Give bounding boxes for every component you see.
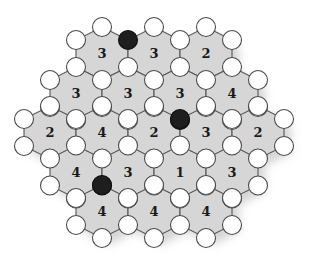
cell-number: 4 (97, 204, 106, 219)
empty-node[interactable] (223, 216, 242, 235)
empty-node[interactable] (41, 149, 60, 168)
empty-node[interactable] (67, 110, 86, 129)
empty-node[interactable] (223, 58, 242, 77)
empty-node[interactable] (41, 176, 60, 195)
filled-node[interactable] (171, 110, 190, 129)
empty-node[interactable] (223, 189, 242, 208)
cell-number: 2 (45, 125, 54, 140)
game-board: 3323334242324313444 (0, 0, 313, 263)
empty-node[interactable] (119, 136, 138, 155)
empty-node[interactable] (119, 110, 138, 129)
cell-number: 3 (123, 165, 132, 180)
cell-number: 4 (71, 165, 80, 180)
empty-node[interactable] (197, 176, 216, 195)
empty-node[interactable] (223, 31, 242, 50)
empty-node[interactable] (41, 71, 60, 90)
cell-number: 4 (97, 125, 106, 140)
empty-node[interactable] (197, 149, 216, 168)
cell-number: 3 (97, 46, 106, 61)
filled-node[interactable] (93, 176, 112, 195)
empty-node[interactable] (197, 97, 216, 116)
empty-node[interactable] (93, 229, 112, 248)
empty-node[interactable] (145, 176, 164, 195)
empty-node[interactable] (67, 136, 86, 155)
cell-number: 4 (227, 86, 236, 101)
empty-node[interactable] (67, 58, 86, 77)
empty-node[interactable] (119, 58, 138, 77)
cell-number: 2 (149, 125, 158, 140)
empty-node[interactable] (67, 31, 86, 50)
empty-node[interactable] (171, 216, 190, 235)
empty-node[interactable] (223, 110, 242, 129)
empty-node[interactable] (197, 71, 216, 90)
empty-node[interactable] (249, 149, 268, 168)
empty-node[interactable] (145, 18, 164, 37)
empty-node[interactable] (67, 216, 86, 235)
empty-node[interactable] (275, 110, 294, 129)
empty-node[interactable] (15, 110, 34, 129)
empty-node[interactable] (249, 176, 268, 195)
empty-node[interactable] (93, 71, 112, 90)
empty-node[interactable] (171, 189, 190, 208)
filled-node[interactable] (119, 31, 138, 50)
empty-node[interactable] (171, 136, 190, 155)
empty-node[interactable] (197, 229, 216, 248)
empty-node[interactable] (145, 149, 164, 168)
cell-number: 3 (175, 86, 184, 101)
empty-node[interactable] (67, 189, 86, 208)
empty-node[interactable] (41, 97, 60, 116)
cell-number: 2 (201, 46, 210, 61)
cell-number: 3 (227, 165, 236, 180)
cell-number: 3 (123, 86, 132, 101)
cell-number: 3 (71, 86, 80, 101)
empty-node[interactable] (197, 18, 216, 37)
empty-node[interactable] (275, 137, 294, 156)
empty-node[interactable] (249, 97, 268, 116)
empty-node[interactable] (145, 97, 164, 116)
empty-node[interactable] (93, 97, 112, 116)
empty-node[interactable] (119, 189, 138, 208)
empty-node[interactable] (249, 71, 268, 90)
cell-number: 2 (253, 125, 262, 140)
cell-number: 3 (201, 125, 210, 140)
empty-node[interactable] (15, 137, 34, 156)
cell-number: 4 (201, 204, 210, 219)
empty-node[interactable] (145, 229, 164, 248)
empty-node[interactable] (171, 31, 190, 50)
empty-node[interactable] (145, 71, 164, 90)
empty-node[interactable] (93, 18, 112, 37)
cell-number: 1 (175, 165, 184, 180)
cell-number: 3 (149, 46, 158, 61)
empty-node[interactable] (119, 216, 138, 235)
empty-node[interactable] (93, 149, 112, 168)
empty-node[interactable] (171, 58, 190, 77)
empty-node[interactable] (223, 136, 242, 155)
cell-number: 4 (149, 204, 158, 219)
